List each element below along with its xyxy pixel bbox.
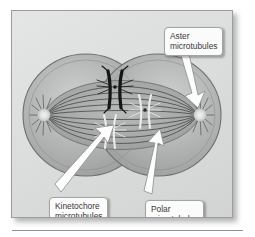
aster-right-pole (194, 109, 207, 122)
callout-aster-line1: Aster (170, 31, 217, 41)
callout-polar-microtubules[interactable]: Polar microtubules (145, 200, 204, 218)
callout-aster-microtubules[interactable]: Aster microtubules (164, 27, 223, 56)
callout-kinetochore-line1: Kinetochore (55, 201, 102, 211)
chromosome-dark-centromere (113, 85, 117, 89)
aster-left-pole (38, 109, 51, 122)
callout-polar-line2: microtubules (151, 214, 198, 218)
callout-aster-line2: microtubules (170, 41, 217, 51)
figure-frame: Aster microtubules Kinetochore microtubu… (11, 10, 233, 218)
figure-bottom-rule (12, 230, 243, 231)
mitotic-spindle-figure: Aster microtubules Kinetochore microtubu… (0, 0, 255, 237)
callout-kinetochore-microtubules[interactable]: Kinetochore microtubules (49, 197, 108, 218)
callout-kinetochore-line2: microtubules (55, 211, 102, 218)
callout-polar-line1: Polar (151, 204, 198, 214)
chromosome-light-right-centromere (143, 108, 146, 111)
